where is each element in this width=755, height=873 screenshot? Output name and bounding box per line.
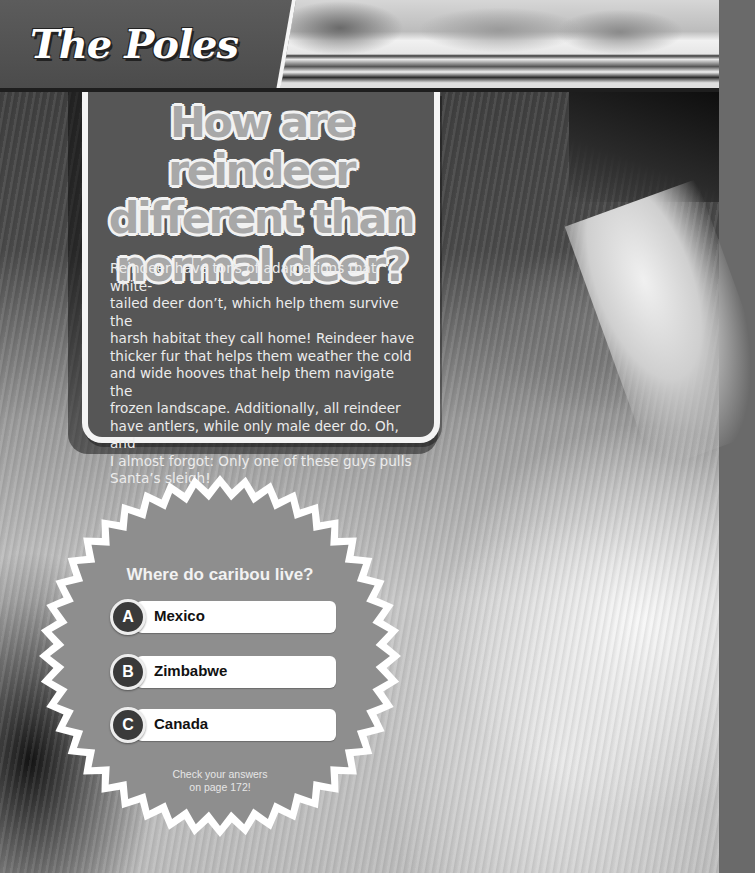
answer-text: Mexico xyxy=(154,607,205,624)
arctic-landscape-banner-image xyxy=(280,0,719,90)
answer-option-b[interactable]: B Zimbabwe xyxy=(110,655,336,689)
answer-letter-badge: C xyxy=(110,707,146,743)
body-line: and wide hooves that help them navigate … xyxy=(110,365,420,400)
body-line: I almost forgot: Only one of these guys … xyxy=(110,453,420,471)
body-line: frozen landscape. Additionally, all rein… xyxy=(110,400,420,418)
page-header: The Poles xyxy=(0,0,719,92)
answer-key-note: Check your answers on page 172! xyxy=(38,768,402,794)
answer-option-c[interactable]: C Canada xyxy=(110,708,336,742)
card-body-text: Reindeer have tons of adaptations that w… xyxy=(110,260,420,488)
answer-option-a[interactable]: A Mexico xyxy=(110,600,336,634)
body-line: harsh habitat they call home! Reindeer h… xyxy=(110,330,420,348)
answer-letter-badge: B xyxy=(110,654,146,690)
quiz-badge: Where do caribou live? A Mexico B Zimbab… xyxy=(38,475,402,837)
answer-text: Canada xyxy=(154,715,208,732)
info-card: How are reindeer different than normal d… xyxy=(82,92,440,443)
answer-text: Zimbabwe xyxy=(154,662,227,679)
card-title-line: different than xyxy=(88,194,434,242)
quiz-question: Where do caribou live? xyxy=(38,565,402,585)
answer-letter-badge: A xyxy=(110,599,146,635)
body-line: Reindeer have tons of adaptations that w… xyxy=(110,260,420,295)
body-line: tailed deer don’t, which help them survi… xyxy=(110,295,420,330)
note-line: on page 172! xyxy=(38,781,402,794)
body-line: thicker fur that helps them weather the … xyxy=(110,348,420,366)
section-title: The Poles xyxy=(30,20,238,67)
card-title-line: How are reindeer xyxy=(88,98,434,194)
body-line: have antlers, while only male deer do. O… xyxy=(110,418,420,453)
note-line: Check your answers xyxy=(38,768,402,781)
